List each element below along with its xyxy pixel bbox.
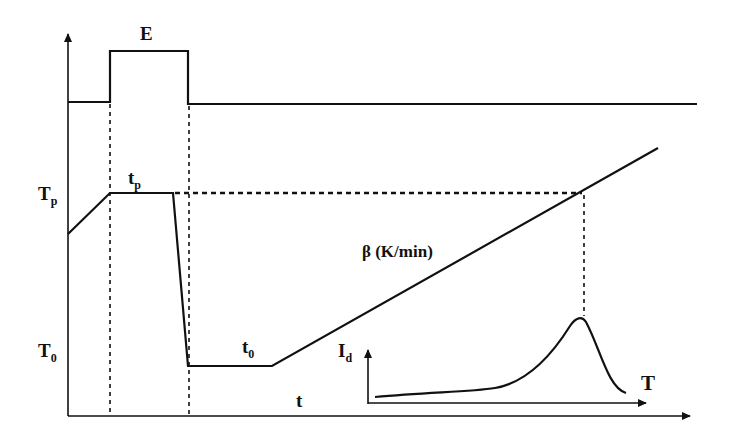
label-E: E	[140, 23, 153, 44]
label-t0: t0	[242, 336, 254, 361]
field-pulse	[68, 51, 697, 104]
label-T: T	[641, 371, 655, 395]
label-t: t	[296, 390, 303, 411]
label-beta: β (K/min)	[362, 242, 433, 261]
label-tp: tp	[128, 167, 141, 192]
inset-tsdc-peak	[375, 318, 626, 397]
tsdc-diagram: E Tp tp T0 t0 β (K/min) t Id T	[0, 0, 729, 439]
label-T0: T0	[38, 340, 57, 365]
label-Tp: Tp	[38, 183, 58, 208]
label-Id: Id	[338, 340, 352, 365]
